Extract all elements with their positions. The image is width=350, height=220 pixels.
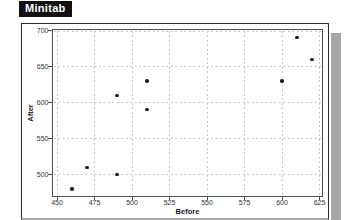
data-point [115, 94, 119, 98]
y-axis-title: After [26, 104, 35, 122]
data-point [280, 79, 284, 83]
chart-layer: 450475500525550575600625500550600650700 [0, 0, 350, 220]
x-tick-label: 500 [120, 199, 145, 207]
gridline-y-500 [54, 174, 321, 175]
data-point [70, 187, 74, 191]
gridline-y-700 [54, 31, 321, 32]
x-tick-label: 625 [307, 199, 332, 207]
x-tick-label: 525 [157, 199, 182, 207]
data-point [115, 173, 119, 177]
gridline-x-525 [169, 31, 170, 195]
gridline-x-450 [57, 31, 58, 195]
y-tick-label: 550 [24, 134, 49, 143]
data-point [85, 166, 89, 170]
data-point [295, 36, 299, 40]
y-tick-label: 650 [24, 62, 49, 71]
data-point [145, 108, 149, 112]
x-axis-title: Before [53, 207, 322, 216]
gridline-x-625 [319, 31, 320, 195]
gridline-x-500 [132, 31, 133, 195]
gridline-x-575 [244, 31, 245, 195]
x-tick-label: 550 [195, 199, 220, 207]
x-tick-label: 450 [45, 199, 70, 207]
data-point [310, 58, 314, 62]
gridline-y-600 [54, 102, 321, 103]
gridline-x-550 [207, 31, 208, 195]
y-tick-label: 500 [24, 170, 49, 179]
x-tick-label: 600 [270, 199, 295, 207]
x-tick-label: 575 [232, 199, 257, 207]
x-tick-label: 475 [82, 199, 107, 207]
gridline-y-650 [54, 66, 321, 67]
gridline-y-550 [54, 138, 321, 139]
gridline-x-600 [282, 31, 283, 195]
screenshot-stage: Minitab 45047550052555057560062550055060… [0, 0, 350, 220]
gridline-x-475 [94, 31, 95, 195]
y-tick-label: 700 [24, 26, 49, 35]
data-point [145, 79, 149, 83]
